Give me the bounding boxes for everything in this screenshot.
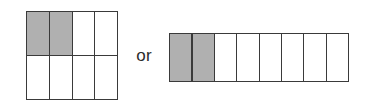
model-cell-unshaded (72, 55, 96, 100)
model-cell-unshaded (94, 11, 118, 56)
model-cell-unshaded (94, 55, 118, 100)
model-cell-shaded (192, 33, 215, 82)
model-cell-unshaded (326, 33, 349, 82)
model-cell-unshaded (72, 11, 96, 56)
model-cell-shaded (26, 11, 50, 56)
or-connector-label: or (131, 44, 157, 68)
model-cell-shaded (169, 33, 192, 82)
model-cell-unshaded (259, 33, 282, 82)
right-strip-model (170, 34, 349, 82)
model-cell-unshaded (214, 33, 237, 82)
model-cell-unshaded (49, 55, 73, 100)
model-cell-unshaded (236, 33, 259, 82)
model-cell-unshaded (281, 33, 304, 82)
fraction-models-figure: or (0, 0, 368, 106)
model-cell-unshaded (303, 33, 326, 82)
left-grid-model (27, 12, 118, 100)
model-cell-unshaded (26, 55, 50, 100)
model-cell-shaded (49, 11, 73, 56)
